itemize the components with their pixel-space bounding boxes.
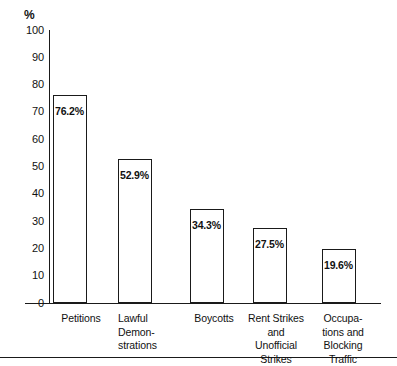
y-axis-tick-label: 80 — [0, 79, 44, 90]
y-axis-tick-label: 20 — [0, 243, 44, 254]
bar — [53, 95, 87, 303]
y-axis-tick-label: 30 — [0, 216, 44, 227]
y-axis-tick-label: 100 — [0, 25, 44, 36]
x-axis-category-label: Occupa- tions and Blocking Traffic — [310, 312, 376, 366]
y-axis-tick-label: 90 — [0, 52, 44, 63]
y-axis-tick-label: 40 — [0, 188, 44, 199]
x-axis-category-label: Boycotts — [183, 312, 245, 326]
y-axis-unit-label: % — [24, 8, 34, 22]
y-axis-tick-label: 60 — [0, 134, 44, 145]
bar-value-label: 52.9% — [120, 170, 149, 181]
bar-value-label: 19.6% — [324, 260, 353, 271]
bar-value-label: 34.3% — [192, 220, 221, 231]
x-axis-category-label: Rent Strikes and Unofficial Strikes — [240, 312, 312, 366]
y-axis-tick-label: 0 — [0, 298, 44, 309]
y-axis-line — [49, 30, 50, 304]
x-axis-category-label: Lawful Demon- strations — [118, 312, 188, 353]
x-axis-line — [25, 303, 381, 304]
bar-value-label: 76.2% — [55, 106, 84, 117]
bar-value-label: 27.5% — [255, 239, 284, 250]
y-axis-tick-label: 10 — [0, 270, 44, 281]
y-axis-tick-label: 70 — [0, 106, 44, 117]
x-axis-category-label: Petitions — [46, 312, 116, 326]
bar-chart: % 010203040506070809010076.2%Petitions52… — [0, 0, 397, 366]
y-axis-tick-label: 50 — [0, 161, 44, 172]
bar — [322, 249, 356, 303]
